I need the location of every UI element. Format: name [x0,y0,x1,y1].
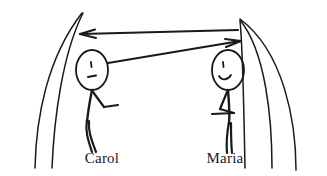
maria-eye [223,62,224,67]
stick-figure-drawing [0,0,327,176]
maria-leg-left [227,122,229,153]
maria-head [212,50,244,90]
arch-curve-right-inner [240,21,245,168]
illustration-canvas: Carol Maria [0,0,327,176]
maria-torso [228,90,229,124]
figure-label-carol: Carol [52,150,152,167]
background-arch-curves [35,13,296,170]
carol-torso [87,90,92,122]
arch-curve-right-outer [240,19,296,170]
figure-carol [76,50,118,152]
carol-mouth-frown [88,76,96,78]
figure-label-maria: Maria [175,150,275,167]
maria-leg-right [231,123,232,153]
carol-eye [91,62,92,67]
carol-forearm [104,105,118,107]
carol-head [76,50,108,90]
carol-upper-arm [93,92,104,107]
arrow-to-carol-shaft [81,30,238,34]
maria-mouth-smile [219,75,231,79]
figure-maria [212,50,244,153]
maria-hand-extension [212,113,234,114]
arch-curve-left-inner [52,13,83,168]
arrow-to-carol [80,30,238,39]
arrow-to-maria-head-upper [225,39,241,41]
maria-upper-arm [220,92,227,109]
arch-curve-left-outer [35,13,82,168]
